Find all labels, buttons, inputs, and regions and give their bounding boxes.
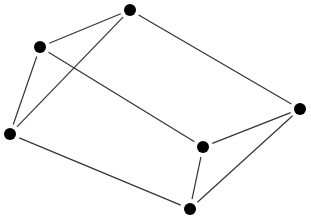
- edge-B-E: [49, 52, 195, 142]
- edge-B-C: [13, 56, 36, 124]
- edge-A-D: [139, 15, 292, 104]
- graph-diagram: [0, 0, 311, 220]
- edge-E-F: [192, 157, 201, 199]
- node-D: [294, 103, 306, 115]
- edges-group: [13, 14, 292, 205]
- node-B: [34, 41, 46, 53]
- edge-C-F: [19, 138, 181, 205]
- node-C: [4, 128, 16, 140]
- node-F: [184, 203, 196, 215]
- node-A: [124, 4, 136, 16]
- edge-A-B: [49, 14, 121, 43]
- edge-A-C: [17, 17, 123, 127]
- edge-D-F: [197, 116, 292, 203]
- nodes-group: [4, 4, 306, 215]
- node-E: [197, 141, 209, 153]
